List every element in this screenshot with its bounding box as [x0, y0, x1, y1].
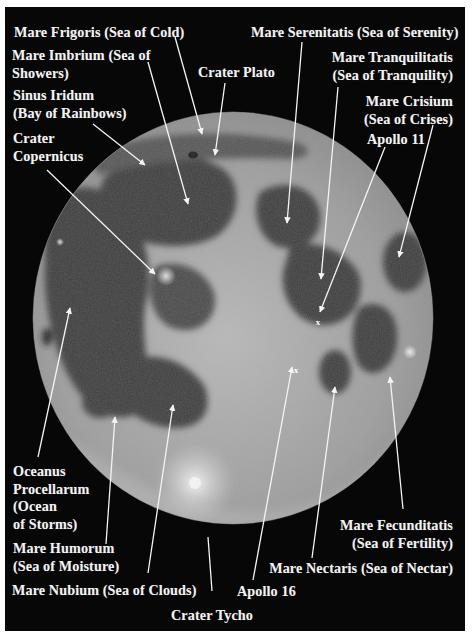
label-mare-serenitatis: Mare Serenitatis (Sea of Serenity) [251, 24, 459, 42]
label-mare-nubium: Mare Nubium (Sea of Clouds) [12, 582, 197, 600]
label-apollo-16: Apollo 16 [237, 583, 296, 601]
label-apollo-11: Apollo 11 [367, 131, 425, 149]
arrow-crater-tycho [208, 537, 212, 591]
label-mare-crisium: Mare Crisium (Sea of Crises) [364, 93, 453, 128]
label-crater-plato: Crater Plato [198, 64, 275, 82]
label-mare-tranquilitatis: Mare Tranquilitatis (Sea of Tranquility) [332, 49, 453, 84]
label-mare-nectaris: Mare Nectaris (Sea of Nectar) [269, 560, 453, 578]
label-mare-humorum: Mare Humorum (Sea of Moisture) [13, 540, 119, 575]
label-crater-tycho: Crater Tycho [171, 607, 253, 625]
label-mare-frigoris: Mare Frigoris (Sea of Cold) [14, 24, 184, 42]
label-oceanus-procellarum: Oceanus Procellarum (Ocean of Storms) [13, 463, 89, 533]
apollo-16-marker: x [294, 365, 299, 375]
label-mare-fecunditatis: Mare Fecunditatis (Sea of Fertility) [340, 517, 453, 552]
moon-diagram: x x Mare Frigoris (Sea of Cold) [5, 7, 465, 631]
label-mare-imbrium: Mare Imbrium (Sea of Showers) [12, 47, 150, 82]
label-sinus-iridum: Sinus Iridum (Bay of Rainbows) [13, 87, 127, 122]
apollo-11-marker: x [316, 317, 321, 327]
label-crater-copernicus: Crater Copernicus [13, 130, 83, 165]
